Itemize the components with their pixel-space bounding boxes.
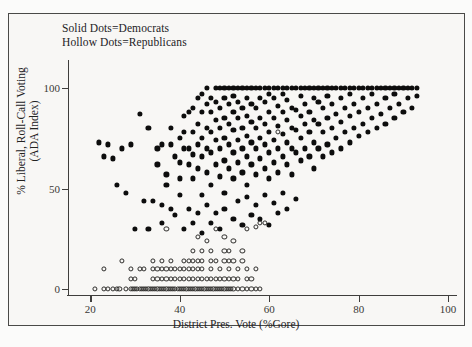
scatter-point-democrat (204, 202, 209, 207)
scatter-point-democrat (168, 142, 173, 147)
scatter-point-democrat (298, 94, 303, 99)
scatter-point-democrat (298, 158, 303, 163)
scatter-point-democrat (235, 160, 240, 165)
scatter-point-democrat (383, 122, 388, 127)
scatter-point-democrat (253, 126, 258, 131)
scatter-point-democrat (244, 134, 249, 139)
scatter-point-democrat (249, 140, 254, 145)
scatter-point-democrat (240, 170, 245, 175)
scatter-point-democrat (146, 226, 151, 231)
scatter-point-democrat (222, 190, 227, 195)
scatter-point-democrat (311, 166, 316, 171)
scatter-point-democrat (217, 146, 222, 151)
scatter-point-republican (208, 248, 213, 253)
scatter-point-democrat (361, 96, 366, 101)
scatter-point-democrat (258, 136, 263, 141)
scatter-point-democrat (298, 136, 303, 141)
scatter-point-democrat (262, 100, 267, 105)
scatter-point-democrat (159, 202, 164, 207)
scatter-point-democrat (222, 96, 227, 101)
scatter-point-democrat (231, 94, 236, 99)
scatter-point-democrat (186, 110, 191, 115)
scatter-point-democrat (307, 110, 312, 115)
scatter-point-republican (226, 248, 231, 253)
scatter-point-republican (231, 238, 236, 243)
scatter-point-republican (150, 258, 155, 263)
scatter-point-republican (258, 286, 263, 291)
scatter-point-republican (132, 276, 137, 281)
scatter-point-democrat (267, 222, 272, 227)
scatter-point-republican (164, 226, 169, 231)
scatter-point-democrat (204, 170, 209, 175)
scatter-point-democrat (338, 96, 343, 101)
scatter-point-democrat (195, 96, 200, 101)
scatter-point-democrat (213, 162, 218, 167)
scatter-point-democrat (258, 116, 263, 121)
scatter-point-democrat (276, 146, 281, 151)
scatter-point-democrat (249, 120, 254, 125)
y-axis-label-line1: % Liberal, Roll-Call Voting (15, 67, 27, 194)
scatter-point-republican (119, 258, 124, 263)
scatter-point-democrat (356, 110, 361, 115)
scatter-point-democrat (159, 142, 164, 147)
scatter-point-republican (200, 258, 205, 263)
scatter-point-democrat (240, 146, 245, 151)
scatter-point-democrat (177, 160, 182, 165)
scatter-point-democrat (115, 182, 120, 187)
scatter-point-democrat (280, 110, 285, 115)
scatter-point-democrat (186, 162, 191, 167)
scatter-point-democrat (97, 140, 102, 145)
scatter-point-democrat (226, 166, 231, 171)
scatter-points-layer (0, 0, 472, 347)
scatter-point-democrat (338, 146, 343, 151)
scatter-point-democrat (195, 210, 200, 215)
scatter-point-republican (191, 248, 196, 253)
scatter-point-democrat (124, 190, 129, 195)
y-axis-label-line2: (ADA Index) (28, 101, 40, 162)
scatter-point-republican (195, 234, 200, 239)
scatter-point-democrat (222, 136, 227, 141)
scatter-point-democrat (316, 100, 321, 105)
scatter-point-republican (208, 266, 213, 271)
scatter-point-democrat (302, 146, 307, 151)
scatter-point-democrat (150, 198, 155, 203)
scatter-point-democrat (200, 110, 205, 115)
scatter-point-democrat (298, 114, 303, 119)
scatter-point-democrat (347, 114, 352, 119)
scatter-point-democrat (325, 116, 330, 121)
scatter-point-democrat (182, 130, 187, 135)
scatter-point-democrat (191, 152, 196, 157)
scatter-point-democrat (284, 98, 289, 103)
scatter-point-democrat (401, 110, 406, 115)
scatter-point-democrat (191, 176, 196, 181)
scatter-point-democrat (213, 210, 218, 215)
scatter-point-democrat (226, 142, 231, 147)
scatter-point-democrat (208, 182, 213, 187)
scatter-point-democrat (155, 162, 160, 167)
scatter-point-democrat (267, 150, 272, 155)
scatter-point-democrat (307, 130, 312, 135)
scatter-point-democrat (284, 162, 289, 167)
scatter-point-democrat (217, 226, 222, 231)
scatter-point-democrat (244, 114, 249, 119)
scatter-point-democrat (271, 116, 276, 121)
scatter-point-republican (200, 248, 205, 253)
scatter-point-democrat (325, 142, 330, 147)
scatter-point-democrat (222, 206, 227, 211)
scatter-point-democrat (329, 102, 334, 107)
scatter-point-democrat (195, 166, 200, 171)
scatter-point-republican (249, 276, 254, 281)
scatter-point-democrat (186, 206, 191, 211)
scatter-point-democrat (110, 156, 115, 161)
scatter-point-democrat (186, 146, 191, 151)
scatter-point-republican (244, 266, 249, 271)
scatter-point-democrat (253, 172, 258, 177)
scatter-point-democrat (334, 112, 339, 117)
scatter-point-democrat (293, 196, 298, 201)
scatter-point-democrat (226, 102, 231, 107)
scatter-point-democrat (208, 150, 213, 155)
scatter-point-republican (226, 266, 231, 271)
scatter-point-democrat (271, 96, 276, 101)
scatter-point-democrat (378, 112, 383, 117)
scatter-point-democrat (271, 160, 276, 165)
